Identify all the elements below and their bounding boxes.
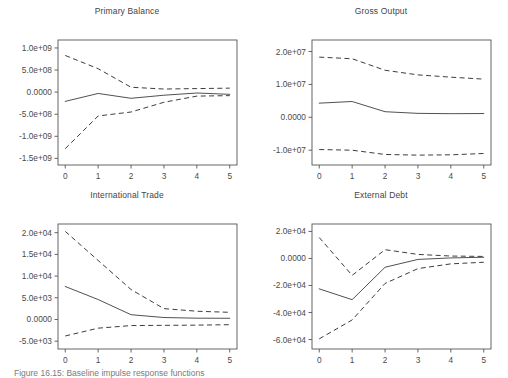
svg-text:4: 4 bbox=[449, 171, 454, 181]
panel-international-trade: International Trade 2.0e+041.5e+041.0e+0… bbox=[0, 190, 254, 372]
svg-text:-1.0e+09: -1.0e+09 bbox=[19, 131, 52, 141]
svg-text:2.0e+04: 2.0e+04 bbox=[276, 226, 307, 236]
svg-text:1.5e+04: 1.5e+04 bbox=[22, 249, 53, 259]
svg-text:0: 0 bbox=[63, 171, 68, 181]
svg-text:4: 4 bbox=[195, 171, 200, 181]
svg-text:0: 0 bbox=[317, 171, 322, 181]
svg-text:5.0e+08: 5.0e+08 bbox=[22, 65, 53, 75]
svg-text:-1.5e+09: -1.5e+09 bbox=[19, 153, 52, 163]
svg-text:0.0000: 0.0000 bbox=[27, 314, 53, 324]
svg-text:3: 3 bbox=[162, 171, 167, 181]
svg-text:5.0e+03: 5.0e+03 bbox=[22, 293, 53, 303]
panel-primary-balance: Primary Balance 1.0e+095.0e+080.0000-5.0… bbox=[0, 6, 254, 188]
svg-text:-5.0e+03: -5.0e+03 bbox=[19, 336, 52, 346]
svg-text:3: 3 bbox=[416, 355, 421, 365]
svg-text:-1.0e+07: -1.0e+07 bbox=[273, 145, 306, 155]
svg-text:5: 5 bbox=[481, 171, 486, 181]
plot-international-trade: 2.0e+041.5e+041.0e+045.0e+030.0000-5.0e+… bbox=[0, 190, 254, 372]
svg-text:1.0e+07: 1.0e+07 bbox=[276, 79, 307, 89]
svg-text:0: 0 bbox=[317, 355, 322, 365]
svg-text:5: 5 bbox=[481, 355, 486, 365]
svg-text:1: 1 bbox=[350, 355, 355, 365]
svg-text:3: 3 bbox=[416, 171, 421, 181]
figure-caption: Figure 16.15: Baseline impulse response … bbox=[14, 368, 494, 378]
svg-text:0: 0 bbox=[63, 355, 68, 365]
svg-text:2: 2 bbox=[383, 355, 388, 365]
svg-text:1: 1 bbox=[96, 355, 101, 365]
svg-text:2: 2 bbox=[383, 171, 388, 181]
svg-text:4: 4 bbox=[449, 355, 454, 365]
panel-external-debt: External Debt 2.0e+040.0000-2.0e+04-4.0e… bbox=[254, 190, 508, 372]
svg-text:2.0e+07: 2.0e+07 bbox=[276, 47, 307, 57]
svg-text:2: 2 bbox=[129, 355, 134, 365]
svg-text:5: 5 bbox=[227, 355, 232, 365]
plot-primary-balance: 1.0e+095.0e+080.0000-5.0e+08-1.0e+09-1.5… bbox=[0, 6, 254, 188]
svg-text:2: 2 bbox=[129, 171, 134, 181]
svg-text:1: 1 bbox=[350, 171, 355, 181]
svg-text:1.0e+04: 1.0e+04 bbox=[22, 271, 53, 281]
svg-text:3: 3 bbox=[162, 355, 167, 365]
svg-text:0.0000: 0.0000 bbox=[27, 87, 53, 97]
svg-text:2.0e+04: 2.0e+04 bbox=[22, 228, 53, 238]
svg-text:0.0000: 0.0000 bbox=[281, 112, 307, 122]
svg-text:4: 4 bbox=[195, 355, 200, 365]
svg-text:-5.0e+08: -5.0e+08 bbox=[19, 109, 52, 119]
plot-external-debt: 2.0e+040.0000-2.0e+04-4.0e+04-6.0e+04012… bbox=[254, 190, 508, 372]
svg-text:-2.0e+04: -2.0e+04 bbox=[273, 280, 306, 290]
panel-gross-output: Gross Output 2.0e+071.0e+070.0000-1.0e+0… bbox=[254, 6, 508, 188]
svg-text:-4.0e+04: -4.0e+04 bbox=[273, 308, 306, 318]
svg-text:5: 5 bbox=[227, 171, 232, 181]
plot-gross-output: 2.0e+071.0e+070.0000-1.0e+07012345 bbox=[254, 6, 508, 188]
svg-text:1: 1 bbox=[96, 171, 101, 181]
svg-text:-6.0e+04: -6.0e+04 bbox=[273, 335, 306, 345]
svg-text:1.0e+09: 1.0e+09 bbox=[22, 43, 53, 53]
svg-text:0.0000: 0.0000 bbox=[281, 253, 307, 263]
